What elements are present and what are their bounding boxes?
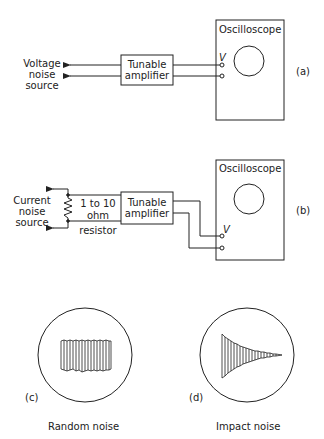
voltage-source-label: Voltage noise source [20,58,64,91]
label-line: amplifier [121,70,173,81]
label-line: amplifier [121,208,173,219]
label-line: Voltage [20,58,64,69]
caption-random-noise: Random noise [48,421,119,432]
impact-noise-trace [222,334,282,378]
resistor-label: 1 to 10 ohm resistor [76,198,120,236]
caption-impact-noise: Impact noise [216,421,280,432]
oscilloscope-box-b [216,160,284,260]
terminal-v-label-a: V [219,52,226,63]
scope-screen-a [234,46,264,76]
label-line: ohm [76,210,120,221]
scope-screen-b [234,184,264,214]
label-line: noise [20,69,64,80]
label-line: Tunable [121,59,173,70]
oscilloscope-box-a [216,20,284,120]
random-noise-trace [61,340,111,372]
panel-tag-d: (d) [189,392,203,403]
label-line: 1 to 10 [76,198,120,209]
label-line: resistor [76,225,120,236]
panel-tag-b: (b) [296,205,310,216]
amplifier-label-a: Tunable amplifier [121,59,173,81]
label-line: Current [10,195,54,206]
oscilloscope-label-a: Oscilloscope [219,24,281,35]
panel-tag-c: (c) [25,392,38,403]
amplifier-label-b: Tunable amplifier [121,197,173,219]
current-source-label: Current noise source [10,195,54,228]
label-line: source [20,80,64,91]
oscilloscope-label-b: Oscilloscope [219,163,281,174]
terminal-v-label-b: V [223,224,230,235]
figure: Voltage noise source Tunable amplifier O… [0,0,324,439]
label-line: noise [10,206,54,217]
panel-tag-a: (a) [296,66,310,77]
resistor-zigzag [64,195,72,221]
label-line: source [10,217,54,228]
label-line: Tunable [121,197,173,208]
